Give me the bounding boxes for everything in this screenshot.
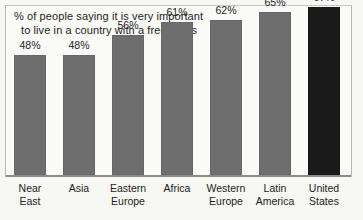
bar-chart-figure: % of people saying it is very important … [0, 0, 363, 220]
bar-slot-western-europe: 62% [210, 20, 242, 175]
x-label-asia-line-1: Asia [51, 182, 107, 195]
x-label-africa: Africa [149, 182, 205, 195]
x-axis-baseline [6, 175, 351, 177]
x-label-united-states-line-2: States [296, 195, 352, 208]
x-label-africa-line-1: Africa [149, 182, 205, 195]
bar-value-western-europe: 62% [204, 4, 248, 16]
x-label-eastern-europe-line-1: Eastern [100, 182, 156, 195]
bar-slot-africa: 61% [161, 22, 193, 175]
bar-western-europe[interactable] [210, 20, 242, 175]
bar-near-east[interactable] [14, 55, 46, 175]
bar-slot-eastern-europe: 56% [112, 35, 144, 175]
bar-slot-united-states: 67% [308, 7, 340, 175]
x-label-near-east: Near East [2, 182, 58, 208]
x-label-latin-america-line-2: America [247, 195, 303, 208]
bar-slot-near-east: 48% [14, 55, 46, 175]
x-label-asia: Asia [51, 182, 107, 195]
x-label-united-states: United States [296, 182, 352, 208]
bar-asia[interactable] [63, 55, 95, 175]
x-label-latin-america-line-1: Latin [247, 182, 303, 195]
bar-value-eastern-europe: 56% [106, 19, 150, 31]
x-label-western-europe-line-2: Europe [198, 195, 254, 208]
bar-united-states[interactable] [308, 7, 340, 175]
x-label-near-east-line-1: Near [2, 182, 58, 195]
x-label-western-europe: Western Europe [198, 182, 254, 208]
bar-value-asia: 48% [57, 39, 101, 51]
plot-area: 48% 48% 56% 61% 62% 65% 67% [6, 6, 351, 177]
x-label-eastern-europe-line-2: Europe [100, 195, 156, 208]
bar-value-united-states: 67% [302, 0, 346, 3]
x-label-united-states-line-1: United [296, 182, 352, 195]
x-label-latin-america: Latin America [247, 182, 303, 208]
x-label-near-east-line-2: East [2, 195, 58, 208]
bar-latin-america[interactable] [259, 12, 291, 175]
bar-value-near-east: 48% [8, 39, 52, 51]
bar-eastern-europe[interactable] [112, 35, 144, 175]
bar-slot-asia: 48% [63, 55, 95, 175]
x-label-eastern-europe: Eastern Europe [100, 182, 156, 208]
x-label-western-europe-line-1: Western [198, 182, 254, 195]
bar-slot-latin-america: 65% [259, 12, 291, 175]
bar-africa[interactable] [161, 22, 193, 175]
bar-value-latin-america: 65% [253, 0, 297, 8]
bar-value-africa: 61% [155, 6, 199, 18]
x-axis-labels: Near East Asia Eastern Europe Africa Wes… [6, 182, 351, 218]
